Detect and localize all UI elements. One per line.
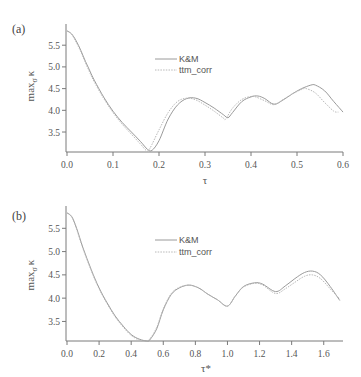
legend-label-ttm-corr: ttm_corr xyxy=(179,247,212,257)
panel-a: (a) maxσκ 3.54.04.55.05.50.00.10.20.30.4… xyxy=(12,22,349,186)
panel-label-a: (a) xyxy=(12,22,25,36)
y-tick-label: 5.5 xyxy=(48,224,60,234)
x-tick-label: 0.4 xyxy=(125,349,137,359)
x-tick-label: 0.2 xyxy=(153,160,165,170)
legend-b: K&M ttm_corr xyxy=(155,235,212,257)
y-tick-label: 4.0 xyxy=(48,106,60,116)
x-tick-label: 0.3 xyxy=(199,160,211,170)
x-axis-title-b: τ* xyxy=(201,362,211,374)
x-tick-label: 0.8 xyxy=(189,349,201,359)
x-tick-label: 0.5 xyxy=(291,160,303,170)
legend-a: K&M ttm_corr xyxy=(155,54,212,75)
axes-b: 3.54.04.55.05.50.00.20.40.60.81.01.21.41… xyxy=(48,206,343,359)
y-axis-title-a: maxσκ xyxy=(24,70,39,101)
legend-label-km: K&M xyxy=(179,235,199,245)
axes-a: 3.54.04.55.05.50.00.10.20.30.40.50.6 xyxy=(48,24,349,170)
y-axis-title-sub: σ xyxy=(30,77,39,82)
series-line-km xyxy=(67,31,343,151)
plot-area-b xyxy=(67,213,340,341)
panel-label-b: (b) xyxy=(12,209,26,223)
plot-area-a xyxy=(67,31,343,151)
series-line-ttm-corr xyxy=(67,213,340,341)
y-axis-title-b: maxσκ xyxy=(24,259,39,290)
x-tick-label: 1.6 xyxy=(318,349,330,359)
figure-canvas: (a) maxσκ 3.54.04.55.05.50.00.10.20.30.4… xyxy=(0,0,361,377)
y-axis-title-sub: σ xyxy=(30,266,39,271)
x-tick-label: 1.2 xyxy=(254,349,266,359)
x-tick-label: 0.0 xyxy=(61,160,73,170)
x-tick-label: 0.6 xyxy=(337,160,349,170)
panel-b: (b) maxσκ 3.54.04.55.05.50.00.20.40.60.8… xyxy=(12,206,343,374)
x-tick-label: 0.0 xyxy=(61,349,73,359)
y-tick-label: 5.5 xyxy=(48,41,60,51)
y-tick-label: 4.5 xyxy=(48,84,60,94)
y-axis-title-symbol: κ xyxy=(24,259,36,265)
legend-label-km: K&M xyxy=(179,54,199,64)
x-tick-label: 0.6 xyxy=(157,349,169,359)
series-line-km xyxy=(67,213,340,341)
x-tick-label: 0.1 xyxy=(107,160,119,170)
y-axis-title-main: max xyxy=(24,271,36,290)
y-axis-title-symbol: κ xyxy=(24,70,36,76)
y-axis-title-main: max xyxy=(24,82,36,101)
svg-text:maxσκ: maxσκ xyxy=(24,259,39,290)
svg-text:maxσκ: maxσκ xyxy=(24,70,39,101)
y-tick-label: 5.0 xyxy=(48,247,60,257)
y-tick-label: 4.5 xyxy=(48,270,60,280)
y-tick-label: 3.5 xyxy=(48,317,60,327)
x-tick-label: 0.2 xyxy=(93,349,105,359)
legend-label-ttm-corr: ttm_corr xyxy=(179,65,212,75)
y-tick-label: 4.0 xyxy=(48,294,60,304)
x-tick-label: 1.4 xyxy=(286,349,298,359)
x-tick-label: 0.4 xyxy=(245,160,257,170)
y-tick-label: 3.5 xyxy=(48,128,60,138)
x-tick-label: 1.0 xyxy=(222,349,234,359)
x-axis-title-a: τ xyxy=(203,174,208,186)
y-tick-label: 5.0 xyxy=(48,62,60,72)
